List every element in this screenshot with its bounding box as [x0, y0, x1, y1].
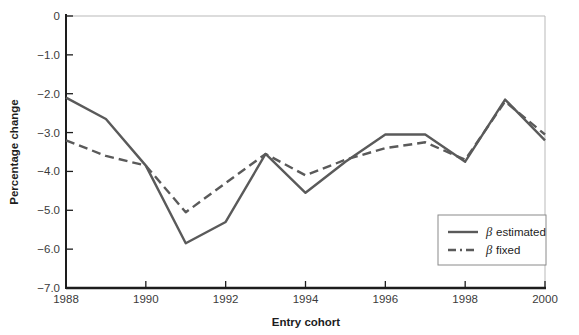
legend-beta-symbol-estimated: β	[485, 225, 493, 239]
figure-container: 0−1.0−2.0−3.0−4.0−5.0−6.0−7.0 Percentage…	[0, 0, 579, 335]
legend-label-estimated: estimated	[496, 226, 546, 238]
y-tick-label: −3.0	[37, 127, 60, 139]
chart-legend: β estimated β fixed	[438, 215, 546, 265]
x-tick-label: 1988	[53, 293, 79, 305]
x-tick-label: 1998	[452, 293, 478, 305]
y-tick-label: −4.0	[37, 165, 60, 177]
legend-label-fixed: fixed	[496, 244, 520, 256]
x-axis-title: Entry cohort	[272, 316, 341, 328]
legend-beta-symbol-fixed: β	[485, 243, 493, 257]
x-tick-label: 1994	[293, 293, 319, 305]
y-tick-label: −1.0	[37, 49, 60, 61]
y-tick-label: −2.0	[37, 88, 60, 100]
x-tick-label: 1990	[133, 293, 159, 305]
y-axis-title: Percentage change	[8, 99, 20, 204]
legend-box	[438, 215, 546, 265]
x-tick-label: 2000	[532, 293, 558, 305]
x-tick-label: 1996	[373, 293, 399, 305]
y-tick-label: −6.0	[37, 243, 60, 255]
y-tick-label: −5.0	[37, 204, 60, 216]
line-chart: 0−1.0−2.0−3.0−4.0−5.0−6.0−7.0 Percentage…	[0, 0, 579, 335]
x-tick-label: 1992	[213, 293, 239, 305]
y-tick-label: 0	[54, 10, 60, 22]
